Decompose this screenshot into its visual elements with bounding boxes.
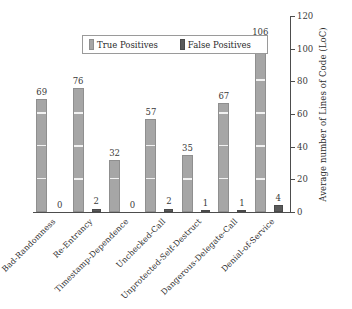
bar-chart: 6907623205723516711064 020406080100120 A… xyxy=(0,0,352,309)
legend-item-true-positives: True Positives xyxy=(89,39,158,50)
bar-value-label-true-positives: 76 xyxy=(73,76,84,86)
y-axis-tick xyxy=(291,179,295,180)
bar-value-label-false-positives: 0 xyxy=(130,200,135,210)
bar-value-label-true-positives: 67 xyxy=(218,91,229,101)
y-axis-tick xyxy=(291,16,295,17)
bar-value-label-false-positives: 0 xyxy=(57,200,62,210)
y-axis-tick-label: 100 xyxy=(297,44,313,54)
bar-true-positives xyxy=(73,88,84,212)
y-axis-title: Average number of Lines of Code (LoC) xyxy=(318,16,332,213)
y-axis-tick xyxy=(291,49,295,50)
y-axis-tick-label: 20 xyxy=(297,174,308,184)
legend-label-true-positives: True Positives xyxy=(97,40,158,50)
fp-swatch-icon xyxy=(180,39,185,50)
bar-group: 690 xyxy=(33,16,69,212)
x-axis-line xyxy=(33,212,291,213)
y-axis-tick-label: 120 xyxy=(297,11,313,21)
legend-label-false-positives: False Positives xyxy=(188,40,251,50)
bar-value-label-true-positives: 69 xyxy=(36,87,47,97)
bar-value-label-false-positives: 2 xyxy=(166,196,171,206)
y-axis-tick-label: 60 xyxy=(297,109,308,119)
bar-value-label-false-positives: 1 xyxy=(239,198,244,208)
bar-true-positives xyxy=(36,99,47,212)
tp-swatch-icon xyxy=(89,39,94,50)
bar-true-positives xyxy=(109,160,120,212)
y-axis-tick xyxy=(291,212,295,213)
legend-item-false-positives: False Positives xyxy=(180,39,251,50)
bar-value-label-true-positives: 35 xyxy=(182,143,193,153)
bar-true-positives xyxy=(145,119,156,212)
y-axis-tick xyxy=(291,114,295,115)
x-axis-labels: Bad-RandomnessRe-EntrancyTimestamp-Depen… xyxy=(0,215,352,309)
chart-legend: True Positives False Positives xyxy=(82,35,268,54)
bar-true-positives xyxy=(255,39,266,212)
bar-value-label-true-positives: 32 xyxy=(109,148,120,158)
y-axis-tick xyxy=(291,147,295,148)
y-axis-tick xyxy=(291,81,295,82)
bar-true-positives xyxy=(218,103,229,212)
bar-true-positives xyxy=(182,155,193,212)
bar-value-label-true-positives: 57 xyxy=(146,107,157,117)
y-axis-tick-label: 40 xyxy=(297,142,308,152)
bar-value-label-false-positives: 4 xyxy=(276,193,281,203)
y-axis-tick-label: 80 xyxy=(297,76,308,86)
bar-value-label-false-positives: 2 xyxy=(93,196,98,206)
bar-value-label-false-positives: 1 xyxy=(203,198,208,208)
